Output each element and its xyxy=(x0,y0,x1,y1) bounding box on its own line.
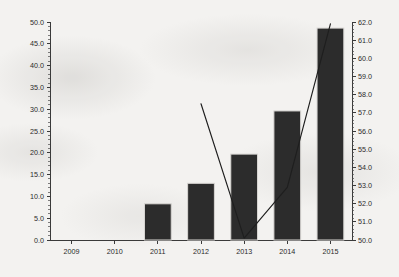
left-axis-tick-label: 25.0 xyxy=(30,127,44,136)
left-axis-tick-label: 30.0 xyxy=(30,105,44,114)
bar xyxy=(188,183,215,240)
right-axis-tick-label: 60.0 xyxy=(358,54,372,63)
right-axis-tick-label: 58.0 xyxy=(358,90,372,99)
right-axis-group: 50.051.052.053.054.055.056.057.058.059.0… xyxy=(352,18,372,245)
x-axis-tick-label: 2012 xyxy=(193,247,209,256)
x-axis-tick-label: 2013 xyxy=(236,247,252,256)
left-axis-tick-label: 50.0 xyxy=(30,18,44,27)
left-axis-tick-label: 20.0 xyxy=(30,148,44,157)
x-axis-tick-label: 2009 xyxy=(64,247,80,256)
x-axis-tick-label: 2015 xyxy=(322,247,338,256)
left-axis-group: 0.05.010.015.020.025.030.035.040.045.050… xyxy=(30,18,50,245)
right-axis-tick-label: 52.0 xyxy=(358,199,372,208)
right-axis-tick-label: 57.0 xyxy=(358,108,372,117)
left-axis-tick-label: 15.0 xyxy=(30,170,44,179)
left-axis-tick-label: 5.0 xyxy=(34,214,44,223)
chart-plot: 0.05.010.015.020.025.030.035.040.045.050… xyxy=(0,0,399,277)
left-axis-tick-label: 40.0 xyxy=(30,61,44,70)
right-axis-tick-label: 55.0 xyxy=(358,145,372,154)
x-axis-tick-label: 2014 xyxy=(279,247,295,256)
left-axis-tick-label: 0.0 xyxy=(34,236,44,245)
right-axis-tick-label: 62.0 xyxy=(358,18,372,27)
right-axis-tick-label: 50.0 xyxy=(358,236,372,245)
right-axis-tick-label: 54.0 xyxy=(358,163,372,172)
bar xyxy=(144,204,171,240)
left-axis-tick-label: 45.0 xyxy=(30,39,44,48)
bar xyxy=(274,111,301,240)
x-axis-tick-label: 2010 xyxy=(107,247,123,256)
chart-container: 0.05.010.015.020.025.030.035.040.045.050… xyxy=(0,0,399,277)
x-axis-group: 2009201020112012201320142015 xyxy=(50,240,352,256)
left-axis-tick-label: 35.0 xyxy=(30,83,44,92)
right-axis-tick-label: 53.0 xyxy=(358,181,372,190)
line-group xyxy=(201,24,330,238)
right-axis-tick-label: 56.0 xyxy=(358,127,372,136)
right-axis-tick-label: 51.0 xyxy=(358,217,372,226)
right-axis-tick-label: 61.0 xyxy=(358,36,372,45)
x-axis-tick-label: 2011 xyxy=(150,247,165,256)
right-axis-tick-label: 59.0 xyxy=(358,72,372,81)
trend-line xyxy=(201,24,330,238)
bars-group xyxy=(144,28,343,240)
left-axis-tick-label: 10.0 xyxy=(30,192,44,201)
